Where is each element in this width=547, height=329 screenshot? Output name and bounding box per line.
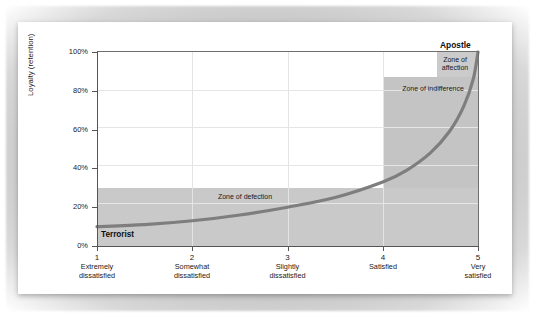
xtick-mark-4 [383, 247, 384, 251]
ytick-label-80: 80% [48, 87, 88, 95]
loyalty-curve [97, 52, 478, 246]
axis-y [97, 51, 98, 247]
apostle-annotation: Apostle [440, 40, 471, 50]
xtick-desc-3-line1: Slightly [233, 262, 343, 271]
zone-of-affection-label-line1: Zone of [443, 56, 467, 63]
ytick-mark-100 [92, 52, 97, 53]
xtick-number-5: 5 [423, 253, 533, 262]
y-axis-title: Loyalty (retention) [26, 0, 35, 96]
ytick-label-40: 40% [48, 164, 88, 172]
xtick-desc-4-line1: Satisfied [328, 262, 438, 271]
xtick-desc-5-line2: satisfied [423, 271, 533, 280]
ytick-mark-20 [92, 207, 97, 208]
axis-right [478, 51, 479, 247]
terrorist-annotation: Terrorist [101, 230, 134, 239]
figure-frame: 100% 80% 60% 40% 20% 0% Loyalty (retenti… [0, 0, 547, 329]
xtick-number-3: 3 [233, 253, 343, 262]
zone-of-affection-label: Zone of affection [437, 56, 473, 72]
xtick-label-2: 2 Somewhat dissatisfied [137, 253, 247, 280]
ytick-mark-60 [92, 130, 97, 131]
xtick-desc-2-line1: Somewhat [137, 262, 247, 271]
xtick-number-4: 4 [328, 253, 438, 262]
xtick-mark-2 [192, 247, 193, 251]
xtick-desc-1-line1: Extremely [42, 262, 152, 271]
xtick-label-1: 1 Extremely dissatisfied [42, 253, 152, 280]
xtick-label-5: 5 Very satisfied [423, 253, 533, 280]
ytick-mark-80 [92, 91, 97, 92]
ytick-mark-40 [92, 168, 97, 169]
xtick-desc-3-line2: dissatisfied [233, 271, 343, 280]
xtick-mark-1 [97, 247, 98, 251]
xtick-desc-1-line2: dissatisfied [42, 271, 152, 280]
xtick-number-1: 1 [42, 253, 152, 262]
zone-of-defection-label: Zone of defection [200, 193, 290, 201]
ytick-label-100: 100% [48, 48, 88, 56]
xtick-mark-5 [478, 247, 479, 251]
zone-of-indifference-label: Zone of indifference [390, 85, 476, 93]
ytick-label-60: 60% [48, 126, 88, 134]
ytick-label-0: 0% [48, 242, 88, 250]
xtick-number-2: 2 [137, 253, 247, 262]
xtick-mark-3 [288, 247, 289, 251]
xtick-label-3: 3 Slightly dissatisfied [233, 253, 343, 280]
ytick-label-20: 20% [48, 203, 88, 211]
xtick-label-4: 4 Satisfied [328, 253, 438, 271]
axis-top [97, 51, 479, 52]
zone-of-affection-label-line2: affection [442, 64, 468, 71]
xtick-desc-2-line2: dissatisfied [137, 271, 247, 280]
xtick-desc-5-line1: Very [423, 262, 533, 271]
